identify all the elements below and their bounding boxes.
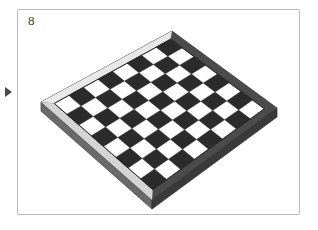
figure-number-label: 8 bbox=[28, 14, 35, 27]
figure-root: 8 bbox=[0, 0, 318, 230]
figure-panel: 8 bbox=[17, 9, 300, 215]
triangle-right-icon bbox=[5, 87, 12, 97]
